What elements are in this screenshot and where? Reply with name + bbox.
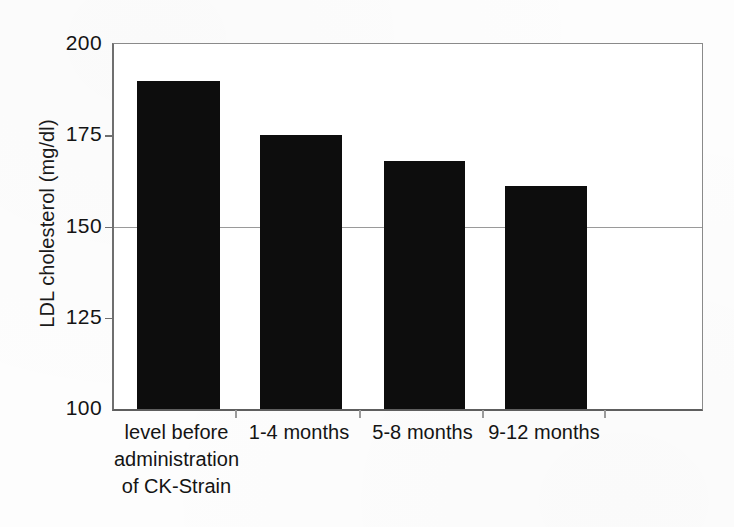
bar	[384, 161, 465, 409]
x-tick-mark	[604, 410, 606, 418]
y-tick-mark	[105, 318, 114, 320]
x-axis-category-label-line: of CK-Strain	[92, 473, 262, 500]
y-tick-label: 125	[42, 305, 102, 329]
bar-chart-figure: LDL cholesterol (mg/dl) 200175150125100 …	[0, 0, 734, 527]
y-tick-label: 150	[42, 214, 102, 238]
y-tick-mark	[105, 135, 114, 137]
x-axis-tick-labels: level beforeadministrationof CK-Strain1-…	[112, 419, 700, 519]
bar	[260, 135, 342, 409]
y-tick-label: 200	[42, 31, 102, 55]
y-tick-label: 100	[42, 396, 102, 420]
bar	[505, 186, 587, 409]
bar	[137, 81, 220, 410]
plot-area	[112, 43, 703, 411]
x-tick-mark	[359, 410, 361, 418]
x-axis-category-label: 9-12 months	[459, 419, 629, 446]
x-tick-mark	[235, 410, 237, 418]
x-axis-category-label-line: administration	[92, 446, 262, 473]
x-axis-category-label-line: 9-12 months	[459, 419, 629, 446]
y-tick-label: 175	[42, 122, 102, 146]
y-tick-mark	[105, 227, 114, 229]
y-axis-tick-labels: 200175150125100	[40, 43, 102, 408]
x-tick-mark	[482, 410, 484, 418]
